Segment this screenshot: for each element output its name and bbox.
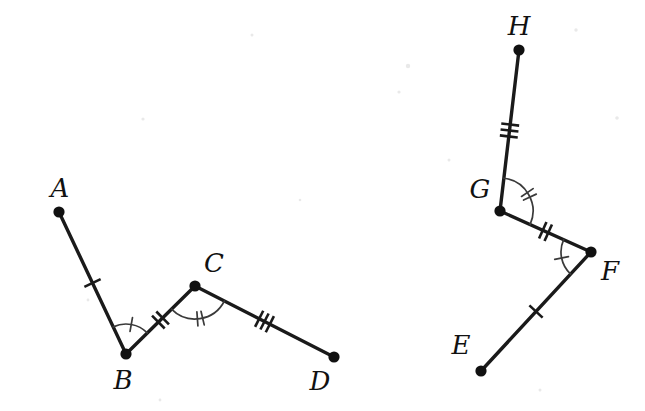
vertex-label-a: A [49,173,70,203]
vertex-dot-d [328,351,339,362]
vertex-dot-a [53,206,64,217]
vertex-label-h: H [507,11,532,41]
vertex-label-b: B [112,365,132,395]
vertex-label-d: D [309,366,331,396]
vertex-dot-b [120,348,131,359]
vertex-label-e: E [451,330,471,360]
vertex-dot-c [189,280,200,291]
vertex-dot-f [585,246,596,257]
vertex-label-f: F [600,256,620,286]
vertex-label-g: G [470,174,491,204]
vertex-dot-e [475,365,486,376]
vertex-label-c: C [204,248,224,278]
geometry-diagram-canvas: ABCD EFGH [0,0,645,411]
vertex-dot-h [513,44,524,55]
vertex-dot-g [494,205,505,216]
